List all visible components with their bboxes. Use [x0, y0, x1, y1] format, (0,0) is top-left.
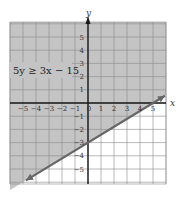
svg-text:3: 3 [80, 60, 84, 68]
svg-text:4: 4 [80, 47, 85, 55]
svg-text:−2: −2 [74, 126, 84, 134]
svg-text:1: 1 [80, 86, 84, 94]
svg-text:−3: −3 [74, 139, 84, 147]
svg-text:5: 5 [151, 105, 155, 113]
svg-text:−4: −4 [31, 105, 42, 113]
svg-text:1: 1 [99, 105, 103, 113]
svg-text:−1: −1 [74, 113, 84, 121]
y-axis-label: y [85, 8, 92, 18]
x-axis-label: x [170, 98, 175, 108]
svg-text:−4: −4 [74, 152, 85, 160]
svg-text:−2: −2 [57, 105, 67, 113]
svg-text:2: 2 [112, 105, 116, 113]
svg-text:3: 3 [125, 105, 129, 113]
inequality-graph: −5−4−3−2−101234554321−1−2−3−4−5 x y 5y ≥… [0, 0, 178, 199]
svg-text:−3: −3 [44, 105, 54, 113]
svg-text:4: 4 [138, 105, 143, 113]
svg-text:−5: −5 [74, 166, 84, 174]
svg-text:0: 0 [87, 105, 91, 113]
inequality-label: 5y ≥ 3x − 15 [13, 65, 79, 76]
svg-text:−5: −5 [18, 105, 28, 113]
svg-text:2: 2 [80, 73, 84, 81]
svg-text:5: 5 [80, 34, 84, 42]
